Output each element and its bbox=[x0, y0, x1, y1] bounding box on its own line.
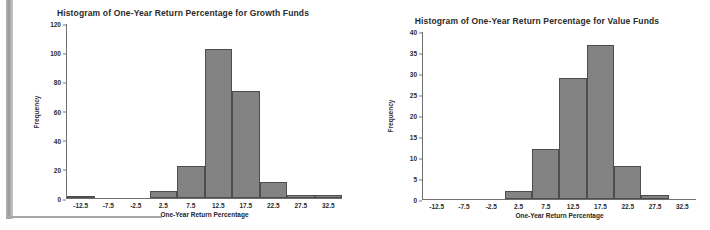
y-tick-label: 25 bbox=[410, 92, 417, 99]
page-scan-left-edge bbox=[6, 0, 13, 219]
x-tick-label: 27.5 bbox=[287, 198, 315, 209]
y-tick-label: 0 bbox=[57, 196, 61, 203]
bar bbox=[587, 45, 614, 199]
chart-growth-funds: Histogram of One-Year Return Percentage … bbox=[18, 4, 348, 216]
bar-cell bbox=[315, 24, 343, 198]
bar-cell bbox=[450, 32, 477, 199]
bar-cell bbox=[614, 32, 641, 199]
x-tick-label: 32.5 bbox=[669, 199, 696, 210]
x-tick-label: 2.5 bbox=[150, 198, 178, 209]
bar-cell bbox=[669, 32, 696, 199]
bar-cell bbox=[205, 24, 233, 198]
x-tick-label: 17.5 bbox=[587, 199, 614, 210]
x-tick-label: 27.5 bbox=[641, 199, 668, 210]
bar bbox=[559, 78, 586, 199]
bar-cell bbox=[559, 32, 586, 199]
y-tick-label: 5 bbox=[413, 176, 417, 183]
y-axis-ticks-value: 0510152025303540 bbox=[388, 32, 422, 200]
y-tick-label: 20 bbox=[54, 166, 61, 173]
bar-cell bbox=[177, 24, 205, 198]
chart-title-value: Histogram of One-Year Return Percentage … bbox=[372, 12, 702, 26]
bar-cell bbox=[150, 24, 178, 198]
x-tick-label: -7.5 bbox=[450, 199, 477, 210]
plot-area-value: -12.5-7.5-2.52.57.512.517.522.527.532.5 … bbox=[422, 32, 696, 200]
plot-area-growth: -12.5-7.5-2.52.57.512.517.522.527.532.5 … bbox=[66, 24, 342, 199]
y-tick-label: 100 bbox=[50, 50, 61, 57]
x-tick-label: 7.5 bbox=[177, 198, 205, 209]
y-tick-label: 80 bbox=[54, 79, 61, 86]
x-tick-label: 7.5 bbox=[532, 199, 559, 210]
x-tick-label: 22.5 bbox=[260, 198, 288, 209]
y-tick-label: 30 bbox=[410, 71, 417, 78]
x-tick-label: 17.5 bbox=[232, 198, 260, 209]
y-tick-label: 0 bbox=[413, 197, 417, 204]
bar-cell bbox=[95, 24, 123, 198]
bar-cell bbox=[587, 32, 614, 199]
x-axis-label-growth: One-Year Return Percentage bbox=[67, 211, 342, 218]
bar bbox=[177, 166, 205, 198]
x-tick-label: -12.5 bbox=[423, 199, 450, 210]
x-tick-label: -2.5 bbox=[478, 199, 505, 210]
chart-title-growth: Histogram of One-Year Return Percentage … bbox=[18, 4, 348, 18]
x-axis-label-value: One-Year Return Percentage bbox=[423, 212, 696, 219]
y-tick-label: 20 bbox=[410, 113, 417, 120]
y-tick-label: 60 bbox=[54, 108, 61, 115]
plot-wrap-value: Frequency 0510152025303540 -12.5-7.5-2.5… bbox=[372, 32, 702, 200]
bar-cell bbox=[423, 32, 450, 199]
x-tick-label: 2.5 bbox=[505, 199, 532, 210]
x-tick-label: 12.5 bbox=[559, 199, 586, 210]
y-tick-label: 10 bbox=[410, 155, 417, 162]
x-axis-ticks-value: -12.5-7.5-2.52.57.512.517.522.527.532.5 bbox=[423, 199, 696, 210]
y-tick-label: 15 bbox=[410, 134, 417, 141]
x-tick-label: 22.5 bbox=[614, 199, 641, 210]
y-tick-label: 40 bbox=[54, 137, 61, 144]
x-tick-label: -2.5 bbox=[122, 198, 150, 209]
y-tick-label: 35 bbox=[410, 50, 417, 57]
bar-cell bbox=[287, 24, 315, 198]
bar bbox=[205, 49, 233, 198]
bar bbox=[614, 166, 641, 199]
bar-series-growth bbox=[67, 24, 342, 198]
x-tick-label: 12.5 bbox=[205, 198, 233, 209]
chart-value-funds: Histogram of One-Year Return Percentage … bbox=[372, 12, 702, 217]
bar-cell bbox=[505, 32, 532, 199]
x-tick-label: -12.5 bbox=[67, 198, 95, 209]
plot-wrap-growth: Frequency 020406080100120 -12.5-7.5-2.52… bbox=[18, 24, 348, 199]
bar-cell bbox=[67, 24, 95, 198]
bar-cell bbox=[122, 24, 150, 198]
bar-cell bbox=[232, 24, 260, 198]
y-tick-label: 120 bbox=[50, 21, 61, 28]
bar-cell bbox=[478, 32, 505, 199]
bar bbox=[150, 191, 178, 198]
bar-cell bbox=[532, 32, 559, 199]
x-tick-label: 32.5 bbox=[315, 198, 343, 209]
bar-cell bbox=[260, 24, 288, 198]
bar bbox=[232, 91, 260, 198]
x-axis-ticks-growth: -12.5-7.5-2.52.57.512.517.522.527.532.5 bbox=[67, 198, 342, 209]
x-tick-label: -7.5 bbox=[95, 198, 123, 209]
bar bbox=[505, 191, 532, 199]
bar-series-value bbox=[423, 32, 696, 199]
y-axis-ticks-growth: 020406080100120 bbox=[32, 24, 66, 199]
bar-cell bbox=[641, 32, 668, 199]
y-tick-label: 40 bbox=[410, 29, 417, 36]
bar bbox=[532, 149, 559, 199]
bar bbox=[260, 182, 288, 198]
